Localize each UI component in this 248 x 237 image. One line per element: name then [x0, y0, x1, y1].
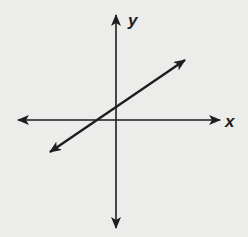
graph-figure: x y: [0, 0, 248, 237]
coordinate-plane: x y: [0, 0, 248, 237]
x-axis-label: x: [224, 112, 236, 131]
graphed-line: [50, 60, 185, 152]
y-axis-label: y: [127, 11, 139, 30]
